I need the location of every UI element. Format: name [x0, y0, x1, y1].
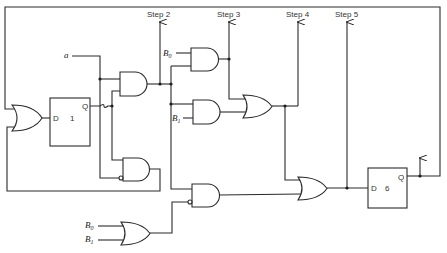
and-gate-inverted-mid — [192, 184, 220, 207]
ff1-number: 1 — [70, 114, 75, 123]
q1-to-and1-wire — [112, 91, 120, 106]
and-mid-to-or3-wire — [219, 194, 301, 195]
or-gate-b0-b1 — [121, 222, 150, 245]
inverter-bubble — [119, 176, 123, 180]
input-a-label: a — [64, 50, 69, 60]
and1-bus-wire — [171, 66, 192, 189]
and-gate-b1 — [193, 100, 220, 124]
step3-label: Step 3 — [217, 10, 241, 19]
step3-to-or2-wire — [229, 59, 246, 99]
ff6-d-label: D — [371, 184, 377, 193]
step4-label: Step 4 — [286, 10, 310, 19]
ff6-number: 6 — [385, 184, 390, 193]
or2-to-or3-wire — [285, 106, 301, 180]
b0-bottom-label: B0 — [85, 220, 94, 231]
step2-label: Step 2 — [147, 10, 171, 19]
q1-to-and-low-wire — [112, 106, 123, 160]
b0-top-label: B0 — [163, 48, 172, 59]
b1-mid-label: B1 — [172, 113, 181, 124]
junction — [345, 186, 348, 189]
inverter-bubble — [188, 200, 192, 204]
or-b-to-and-mid-wire — [150, 202, 188, 233]
and-gate-1 — [120, 72, 147, 96]
or-gate-2 — [243, 95, 272, 118]
b1-bottom-label: B1 — [85, 234, 94, 245]
step5-label: Step 5 — [335, 10, 359, 19]
ff1-q-wire — [90, 105, 112, 108]
ff1-d-label: D — [53, 114, 59, 123]
or-gate-1 — [12, 105, 42, 131]
and-gate-b0 — [191, 48, 219, 71]
ff6-q-label: Q — [398, 173, 404, 182]
or-gate-3 — [298, 177, 327, 200]
feedback-wire-top — [5, 7, 440, 176]
ff1-q-label: Q — [82, 102, 88, 111]
and-gate-inverted-left — [123, 158, 150, 181]
logic-circuit-diagram: D 1 Q a Step 2 B0 Step 3 B1 Step 4 — [0, 0, 447, 253]
